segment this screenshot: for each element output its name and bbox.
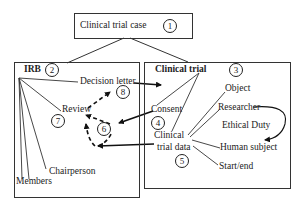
start-end-label: Start/end [219, 162, 253, 172]
researcher-label: Researcher [218, 103, 260, 113]
decision-letter-label: Decision letter [80, 77, 136, 87]
consent-label: Consent [151, 105, 182, 115]
irb-label: IRB [24, 65, 41, 75]
ethical-duty-label: Ethical Duty [222, 121, 270, 131]
object-label: Object [225, 84, 250, 94]
clinical-trial-case-label: Clinical trial case [80, 21, 146, 31]
node-number-4: 4 [151, 116, 165, 130]
node-number-1: 1 [163, 19, 177, 33]
node-number-6: 6 [97, 122, 111, 136]
clinical-trial-data-label-line1: Clinical [154, 131, 184, 141]
members-label: Members [16, 177, 52, 187]
human-subject-label: Human subject [220, 143, 277, 153]
node-number-2: 2 [45, 63, 59, 77]
node-number-7: 7 [51, 114, 65, 128]
clinical-trial-label: Clinical trial [155, 65, 206, 75]
clinical-trial-data-label-line2: trial data [157, 143, 191, 153]
node-number-8: 8 [116, 85, 130, 99]
chairperson-label: Chairperson [49, 167, 95, 177]
node-number-3: 3 [229, 63, 243, 77]
review-label: Review [62, 105, 91, 115]
node-number-5: 5 [175, 154, 189, 168]
